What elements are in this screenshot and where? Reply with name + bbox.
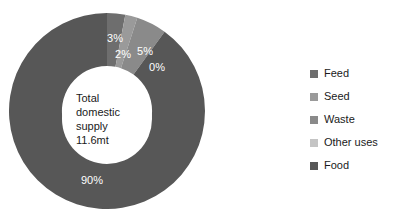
center-total-label: Total domestic supply 11.6mt [62, 74, 152, 164]
slice-value-label-waste: 5% [137, 45, 153, 57]
center-line-1: Total [76, 91, 99, 105]
slice-value-label-seed: 2% [115, 48, 131, 60]
legend-item-food[interactable]: Food [310, 154, 395, 177]
doughnut-chart: 3%2%5%0%90% Total domestic supply 11.6mt… [0, 0, 397, 222]
slice-value-label-other-uses: 0% [149, 61, 165, 73]
legend-item-feed[interactable]: Feed [310, 62, 395, 85]
chart-legend: FeedSeedWasteOther usesFood [310, 62, 395, 177]
legend-item-label: Feed [324, 68, 349, 79]
legend-item-other-uses[interactable]: Other uses [310, 131, 395, 154]
center-line-3: supply [76, 119, 108, 133]
legend-item-waste[interactable]: Waste [310, 108, 395, 131]
legend-swatch-icon [310, 93, 318, 101]
center-line-4: 11.6mt [76, 133, 109, 147]
legend-item-seed[interactable]: Seed [310, 85, 395, 108]
legend-item-label: Food [324, 160, 349, 171]
legend-swatch-icon [310, 116, 318, 124]
legend-item-label: Other uses [324, 137, 378, 148]
slice-value-label-feed: 3% [107, 32, 123, 44]
legend-swatch-icon [310, 139, 318, 147]
legend-item-label: Seed [324, 91, 350, 102]
legend-swatch-icon [310, 70, 318, 78]
slice-value-label-food: 90% [81, 174, 103, 186]
legend-item-label: Waste [324, 114, 355, 125]
center-line-2: domestic [76, 105, 120, 119]
legend-swatch-icon [310, 162, 318, 170]
